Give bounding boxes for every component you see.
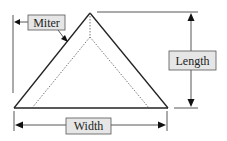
miter-label: Miter xyxy=(33,16,60,30)
arrow-left-icon xyxy=(14,19,20,25)
width-dimension: Width xyxy=(14,111,167,134)
arrow-down-icon xyxy=(188,99,195,107)
arrow-left-icon xyxy=(15,122,23,129)
width-label: Width xyxy=(74,119,104,133)
length-label: Length xyxy=(176,54,210,68)
miter-annotation: Miter xyxy=(13,15,68,93)
arrow-right-icon xyxy=(158,122,166,129)
miter-triangle-diagram: Miter Length Width xyxy=(0,0,227,141)
arrow-up-icon xyxy=(188,13,195,21)
